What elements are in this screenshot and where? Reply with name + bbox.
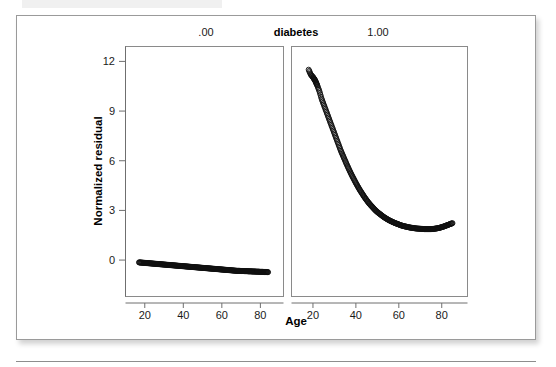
figure-frame — [16, 15, 536, 340]
top-decoration-band — [22, 0, 222, 8]
bottom-horizontal-rule — [16, 361, 536, 362]
